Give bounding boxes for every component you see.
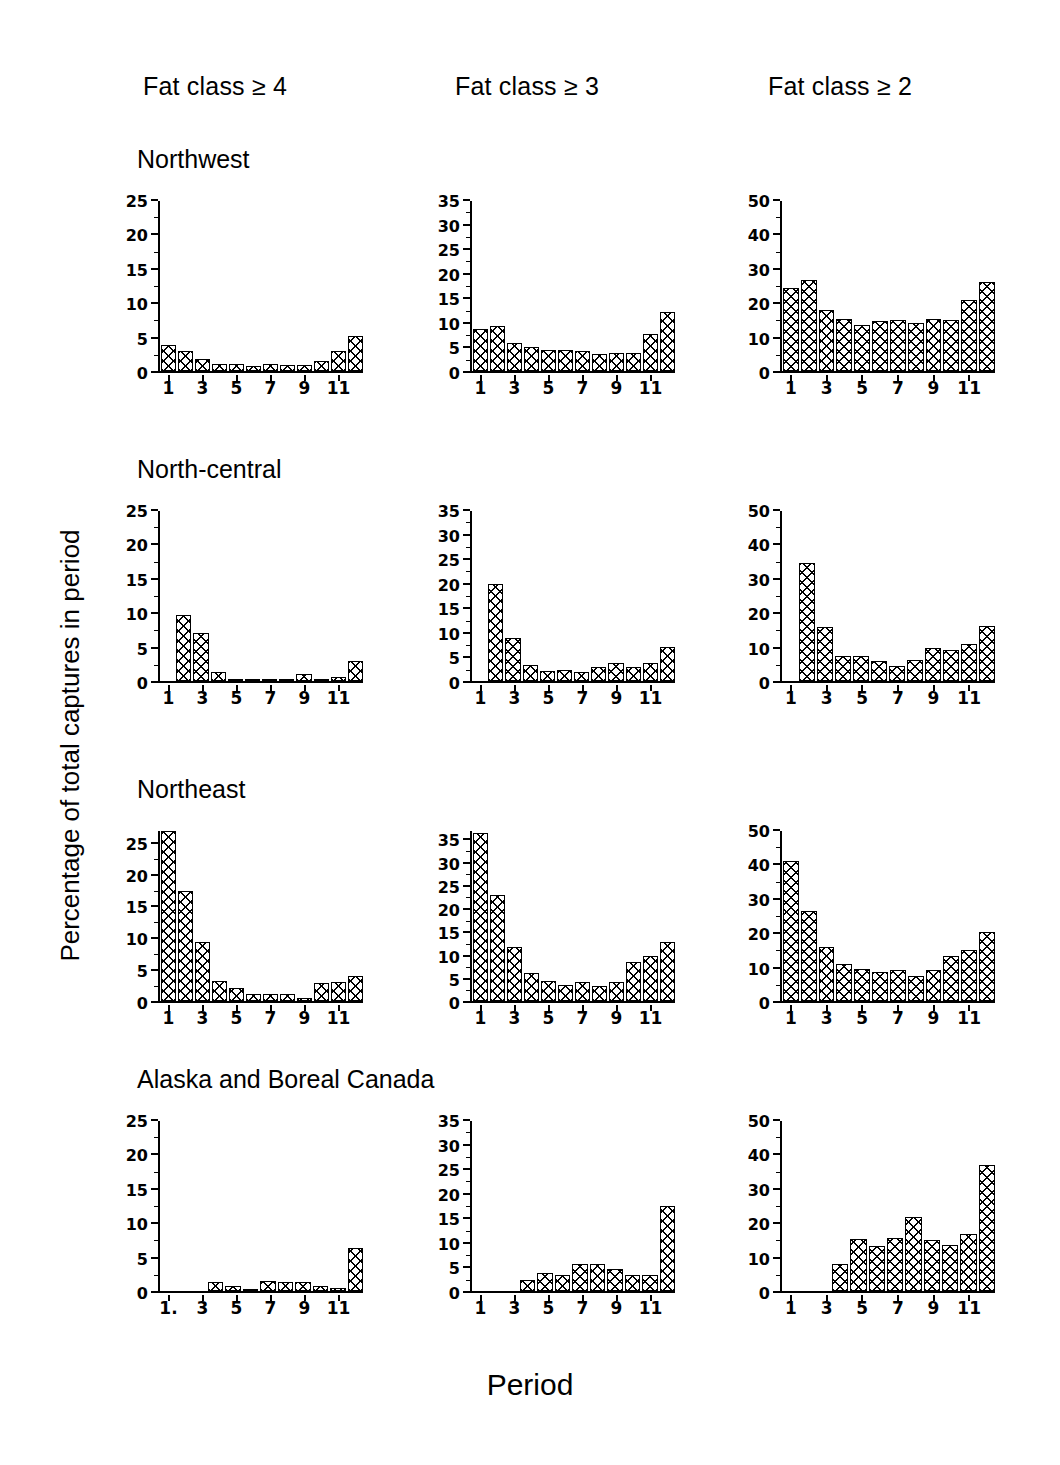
- x-axis-tick: 5: [541, 685, 556, 705]
- y-axis-tick-label: 0: [137, 994, 148, 1013]
- bar: [908, 976, 924, 1001]
- x-axis-tick-label: 5: [543, 1298, 555, 1318]
- y-axis-minor-tick: [154, 630, 158, 631]
- x-axis-tick: [660, 375, 675, 395]
- y-axis-tick-label: 20: [748, 295, 770, 314]
- y-axis-minor-tick: [154, 922, 158, 923]
- x-axis-ticks: 1357911: [473, 1005, 675, 1025]
- y-axis-tick: [151, 509, 158, 511]
- y-axis-tick: [463, 1119, 470, 1121]
- bar: [263, 994, 278, 1001]
- bar: [523, 665, 538, 681]
- x-axis-tick: 3: [507, 685, 522, 705]
- y-axis-line: [158, 511, 160, 683]
- x-axis-tick: [212, 685, 227, 705]
- y-axis-tick: [463, 371, 470, 373]
- y-axis-minor-tick: [466, 522, 470, 523]
- bar: [505, 638, 520, 681]
- x-axis-tick-label: 1: [785, 1008, 797, 1028]
- x-axis-tick: [836, 1295, 852, 1315]
- x-axis-tick-label: 5: [543, 1008, 555, 1028]
- y-axis-minor-tick: [466, 1231, 470, 1232]
- y-axis-tick: [151, 268, 158, 270]
- y-axis-tick-label: 0: [449, 1284, 460, 1303]
- x-axis-tick: 11: [331, 685, 346, 705]
- bar: [195, 942, 210, 1001]
- y-axis-tick: [463, 346, 470, 348]
- bar-series: [161, 1121, 363, 1291]
- y-axis-minor-tick: [154, 986, 158, 987]
- x-axis-tick: [524, 375, 539, 395]
- x-axis-tick: 5: [229, 1005, 244, 1025]
- x-axis-tick: 9: [926, 1295, 942, 1315]
- x-axis-tick: 11: [331, 1005, 346, 1025]
- bar: [660, 312, 675, 371]
- x-axis-tick: 1: [161, 375, 176, 395]
- y-axis-tick-label: 0: [759, 364, 770, 383]
- x-axis-tick-label: 7: [265, 1008, 277, 1028]
- chart-group: 05101520251357911 051015202530351357911 …: [0, 503, 1060, 718]
- y-axis-minor-tick: [154, 1240, 158, 1241]
- x-axis-tick: 3: [507, 1005, 522, 1025]
- x-axis-tick: 1: [783, 685, 799, 705]
- bar: [890, 320, 906, 371]
- x-axis-tick: 1.: [161, 1295, 176, 1315]
- bar: [819, 310, 835, 371]
- x-axis-tick-label: 1: [475, 688, 487, 708]
- y-axis-tick-label: 30: [438, 1136, 460, 1155]
- y-axis-tick-label: 20: [126, 866, 148, 885]
- x-axis-ticks: 1357911: [473, 375, 675, 395]
- x-axis-tick-label: 11: [639, 378, 663, 398]
- y-axis-minor-tick: [776, 916, 780, 917]
- x-axis-tick-label: 7: [265, 378, 277, 398]
- bar: [905, 1217, 921, 1291]
- y-axis-tick: [151, 874, 158, 876]
- y-axis-tick-label: 35: [438, 1112, 460, 1131]
- x-axis-tick: [908, 685, 924, 705]
- y-axis-tick-label: 20: [438, 265, 460, 284]
- x-axis-tick: 3: [819, 375, 835, 395]
- x-axis-title: Period: [0, 1368, 1060, 1402]
- bar: [260, 1281, 276, 1291]
- y-axis-tick-label: 25: [126, 502, 148, 521]
- x-axis-tick: 5: [854, 685, 870, 705]
- bar: [348, 661, 363, 681]
- bar: [208, 1282, 224, 1291]
- y-axis-tick-label: 10: [126, 295, 148, 314]
- y-axis-tick-label: 20: [438, 1185, 460, 1204]
- x-axis-tick-label: 7: [892, 1298, 904, 1318]
- y-axis-tick-label: 5: [137, 962, 148, 981]
- bar: [853, 656, 869, 682]
- x-axis-tick: [660, 1295, 675, 1315]
- y-axis-tick-label: 50: [748, 1112, 770, 1131]
- y-axis-tick-label: 20: [126, 536, 148, 555]
- x-axis-tick-label: 11: [639, 1298, 663, 1318]
- x-axis-tick: [558, 1005, 573, 1025]
- chart-alaska-fat2: 010203040501357911: [722, 1113, 1022, 1328]
- chart-north-central-fat2: 010203040501357911: [722, 503, 1022, 718]
- x-axis-tick: 9: [926, 375, 942, 395]
- x-axis-tick: [524, 1005, 539, 1025]
- x-axis-tick-label: 9: [611, 1298, 623, 1318]
- x-axis-tick-label: 5: [231, 688, 243, 708]
- y-axis-tick: [773, 898, 780, 900]
- plot-area: 010203040501357911: [780, 831, 995, 1003]
- y-axis-tick-label: 0: [137, 674, 148, 693]
- x-axis-tick: 5: [854, 375, 870, 395]
- bar: [212, 364, 227, 371]
- x-axis-tick: [490, 685, 505, 705]
- bar: [348, 336, 363, 371]
- y-axis-minor-tick: [776, 596, 780, 597]
- bar: [297, 998, 312, 1001]
- x-axis-tick: [979, 375, 995, 395]
- plot-area: 051015202530351357911: [470, 831, 675, 1003]
- bar: [872, 321, 888, 371]
- bar: [161, 831, 176, 1001]
- x-axis-tick: 1: [783, 1295, 799, 1315]
- x-axis-tick: 5: [854, 1295, 870, 1315]
- y-axis-tick: [773, 612, 780, 614]
- bar: [836, 964, 852, 1001]
- y-axis-tick: [463, 862, 470, 864]
- bar: [817, 627, 833, 681]
- x-axis-tick: 5: [229, 375, 244, 395]
